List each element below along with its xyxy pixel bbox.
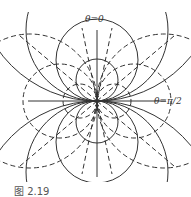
figure-caption: 图 2.19 bbox=[14, 183, 49, 197]
label-theta-zero: θ=0 bbox=[85, 14, 104, 24]
label-theta-half-pi: θ=π/2 bbox=[154, 96, 182, 106]
